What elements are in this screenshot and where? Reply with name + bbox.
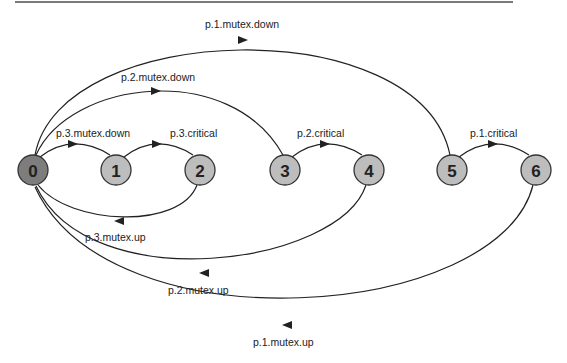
node-label: 6 bbox=[531, 162, 540, 181]
edge-0-3 bbox=[36, 91, 283, 155]
node-label: 2 bbox=[195, 162, 204, 181]
edge-label: p.3.critical bbox=[170, 127, 217, 139]
edge-0-1 bbox=[40, 144, 110, 157]
node-label: 0 bbox=[28, 162, 37, 181]
edge-label: p.3.mutex.down bbox=[56, 127, 130, 139]
edge-5-6 bbox=[459, 144, 529, 157]
node-label: 4 bbox=[364, 162, 374, 181]
state-graph: p.3.mutex.down p.3.critical p.3.mutex.up… bbox=[0, 0, 567, 363]
edge-label: p.1.critical bbox=[470, 127, 517, 139]
edge-2-0 bbox=[38, 185, 197, 217]
edge-label: p.2.mutex.up bbox=[168, 284, 229, 296]
edge-label: p.2.critical bbox=[297, 127, 344, 139]
edge-label: p.1.mutex.up bbox=[253, 336, 314, 348]
edge-4-0 bbox=[36, 185, 366, 259]
edge-3-4 bbox=[292, 144, 362, 157]
edge-label: p.3.mutex.up bbox=[85, 231, 146, 243]
node-label: 5 bbox=[447, 162, 456, 181]
edge-1-2 bbox=[124, 144, 193, 157]
node-label: 3 bbox=[280, 162, 289, 181]
edge-label: p.2.mutex.down bbox=[121, 71, 195, 83]
edge-label: p.1.mutex.down bbox=[205, 18, 279, 30]
node-label: 1 bbox=[111, 162, 120, 181]
